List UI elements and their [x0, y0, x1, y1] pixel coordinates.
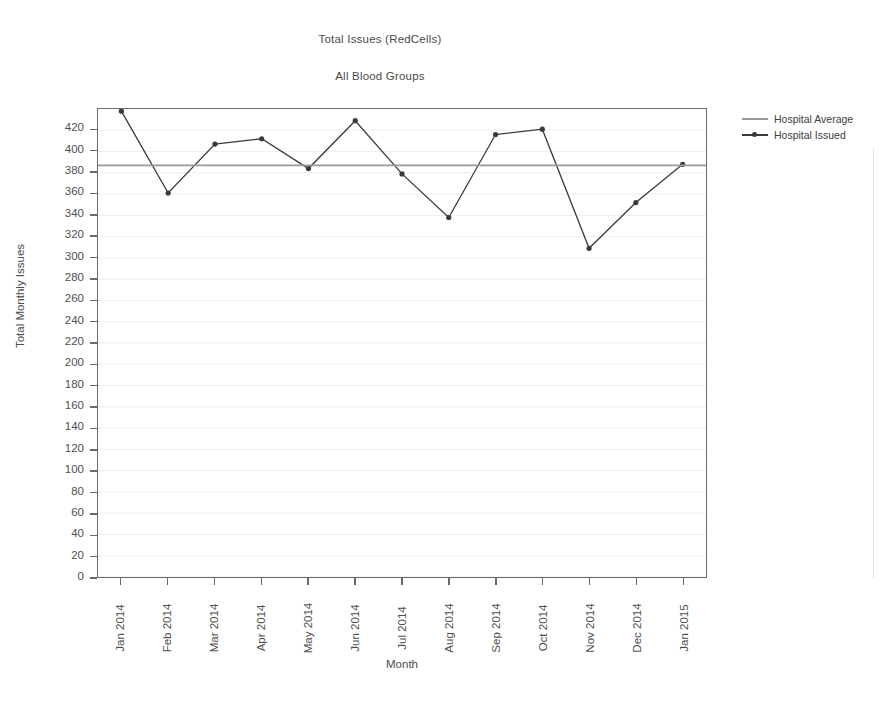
legend-label: Hospital Issued — [774, 129, 846, 141]
y-tick-label: 0 — [78, 570, 84, 582]
data-point-marker[interactable] — [306, 166, 311, 171]
x-tick-mark — [683, 578, 684, 585]
y-tick-mark — [90, 385, 97, 386]
y-tick-label: 120 — [65, 442, 84, 454]
y-tick-mark — [90, 577, 97, 578]
y-tick-mark — [90, 513, 97, 514]
chart-subtitle: All Blood Groups — [0, 70, 760, 82]
legend-swatch-icon — [742, 113, 768, 125]
plot-area — [97, 108, 707, 578]
x-tick-mark — [589, 578, 590, 585]
legend-item[interactable]: Hospital Issued — [742, 128, 877, 142]
y-tick-label: 420 — [65, 121, 84, 133]
data-point-marker[interactable] — [633, 200, 638, 205]
x-tick-label: Feb 2014 — [161, 588, 173, 668]
y-tick-label: 380 — [65, 164, 84, 176]
y-tick-label: 80 — [71, 485, 84, 497]
y-tick-mark — [90, 214, 97, 215]
x-axis-title: Month — [97, 658, 707, 670]
y-tick-label: 340 — [65, 207, 84, 219]
y-tick-mark — [90, 129, 97, 130]
y-tick-mark — [90, 300, 97, 301]
chart-root: Total Issues (RedCells) All Blood Groups… — [0, 0, 886, 711]
y-tick-mark — [90, 257, 97, 258]
data-point-marker[interactable] — [586, 246, 591, 251]
y-tick-label: 400 — [65, 143, 84, 155]
x-tick-mark — [261, 578, 262, 585]
x-axis: Jan 2014Feb 2014Mar 2014Apr 2014May 2014… — [97, 578, 707, 648]
x-tick-mark — [214, 578, 215, 585]
y-tick-label: 360 — [65, 185, 84, 197]
y-tick-mark — [90, 150, 97, 151]
x-tick-label: Oct 2014 — [537, 588, 549, 668]
y-tick-label: 300 — [65, 250, 84, 262]
y-tick-label: 140 — [65, 420, 84, 432]
data-point-marker[interactable] — [212, 142, 217, 147]
chart-title: Total Issues (RedCells) — [0, 33, 760, 45]
x-tick-label: Jan 2015 — [678, 588, 690, 668]
y-tick-label: 200 — [65, 356, 84, 368]
y-tick-mark — [90, 278, 97, 279]
y-tick-mark — [90, 428, 97, 429]
page-edge-artifact — [873, 148, 874, 578]
x-tick-mark — [307, 578, 308, 585]
y-tick-label: 60 — [71, 506, 84, 518]
x-tick-label: Jun 2014 — [349, 588, 361, 668]
y-tick-mark — [90, 492, 97, 493]
y-tick-mark — [90, 171, 97, 172]
y-tick-mark — [90, 342, 97, 343]
y-tick-mark — [90, 449, 97, 450]
y-tick-label: 280 — [65, 271, 84, 283]
y-tick-mark — [90, 556, 97, 557]
x-tick-mark — [401, 578, 402, 585]
data-point-marker[interactable] — [540, 127, 545, 132]
y-tick-mark — [90, 535, 97, 536]
x-tick-label: Mar 2014 — [208, 588, 220, 668]
x-tick-mark — [120, 578, 121, 585]
x-tick-mark — [167, 578, 168, 585]
x-tick-mark — [354, 578, 355, 585]
x-tick-label: Jan 2014 — [114, 588, 126, 668]
y-tick-label: 100 — [65, 463, 84, 475]
x-tick-label: Dec 2014 — [631, 588, 643, 668]
y-tick-mark — [90, 364, 97, 365]
y-tick-label: 220 — [65, 335, 84, 347]
y-tick-label: 20 — [71, 549, 84, 561]
data-point-marker[interactable] — [259, 136, 264, 141]
x-tick-mark — [636, 578, 637, 585]
x-tick-label: Nov 2014 — [584, 588, 596, 668]
y-tick-label: 40 — [71, 527, 84, 539]
legend-label: Hospital Average — [774, 113, 853, 125]
x-tick-label: Jul 2014 — [396, 588, 408, 668]
x-tick-mark — [495, 578, 496, 585]
chart-legend: Hospital AverageHospital Issued — [742, 112, 877, 144]
y-tick-mark — [90, 470, 97, 471]
x-tick-label: Apr 2014 — [255, 588, 267, 668]
data-point-marker[interactable] — [446, 215, 451, 220]
y-tick-label: 320 — [65, 228, 84, 240]
y-tick-mark — [90, 235, 97, 236]
y-tick-mark — [90, 406, 97, 407]
y-tick-label: 180 — [65, 378, 84, 390]
x-tick-label: Sep 2014 — [490, 588, 502, 668]
data-point-marker[interactable] — [493, 132, 498, 137]
y-tick-label: 160 — [65, 399, 84, 411]
legend-item[interactable]: Hospital Average — [742, 112, 877, 126]
x-tick-mark — [448, 578, 449, 585]
x-tick-label: Aug 2014 — [443, 588, 455, 668]
x-tick-mark — [542, 578, 543, 585]
y-tick-label: 240 — [65, 314, 84, 326]
issued-line — [121, 111, 682, 248]
legend-swatch-icon — [742, 129, 768, 141]
y-tick-label: 260 — [65, 292, 84, 304]
data-point-marker[interactable] — [399, 171, 404, 176]
y-tick-mark — [90, 321, 97, 322]
data-point-marker[interactable] — [166, 190, 171, 195]
data-point-marker[interactable] — [353, 118, 358, 123]
series-layer — [98, 109, 706, 577]
x-tick-label: May 2014 — [302, 588, 314, 668]
y-axis-title: Total Monthly Issues — [14, 216, 26, 376]
y-tick-mark — [90, 193, 97, 194]
